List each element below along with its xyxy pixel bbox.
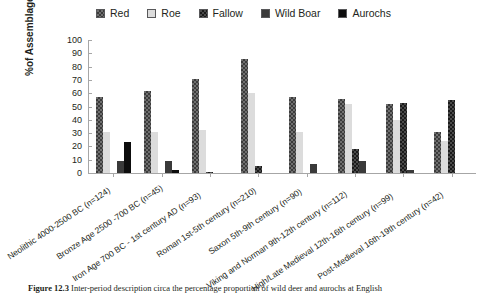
x-tick-label: Saxon 5th-9th century (n=90) [207,187,304,256]
bar-group [137,40,185,173]
y-tick-label: 0 [52,169,82,178]
plot-area: %of Assemblages 1009080706050403020100 [0,30,487,180]
y-tick-label: 10 [52,156,82,165]
y-tick-label: 40 [52,116,82,125]
y-tick-label: 60 [52,89,82,98]
bar-wild-boar[interactable] [407,170,414,173]
bar-groups [89,40,476,173]
fallow-swatch-icon [199,9,208,18]
bar-group [186,40,234,173]
bar-roe[interactable] [393,120,400,173]
red-swatch-icon [96,9,105,18]
wild-boar-swatch-icon [261,9,270,18]
bar-red[interactable] [338,99,345,173]
legend-label-wild-boar: Wild Boar [275,8,321,19]
y-tick-label: 90 [52,49,82,58]
bar-red[interactable] [289,97,296,173]
figure-container: Red Roe Fallow Wild Boar Aurochs %of Ass… [0,0,487,298]
bar-wild-boar[interactable] [165,161,172,173]
bar-roe[interactable] [151,132,158,173]
bar-roe[interactable] [296,132,303,173]
bar-roe[interactable] [199,130,206,173]
bar-fallow[interactable] [255,166,262,173]
caption-number: Figure 12.3 [28,283,69,293]
bar-red[interactable] [434,132,441,173]
bar-wild-boar[interactable] [359,161,366,173]
bar-aurochs[interactable] [172,170,179,173]
bar-wild-boar[interactable] [117,161,124,173]
bar-roe[interactable] [103,132,110,173]
legend-label-fallow: Fallow [213,8,243,19]
aurochs-swatch-icon [338,9,347,18]
y-tick-label: 100 [52,36,82,45]
bar-group [428,40,476,173]
legend-label-roe: Roe [161,8,180,19]
legend-item-red[interactable]: Red [96,8,129,19]
bar-red[interactable] [144,91,151,173]
bar-aurochs[interactable] [124,142,131,173]
y-axis-ticks: 1009080706050403020100 [58,40,88,173]
roe-swatch-icon [147,9,156,18]
y-tick-label: 80 [52,63,82,72]
y-tick-label: 50 [52,103,82,112]
bar-red[interactable] [386,104,393,173]
bar-roe[interactable] [345,104,352,173]
x-axis-line [88,173,476,174]
y-tick-label: 70 [52,76,82,85]
y-tick-label: 20 [52,142,82,151]
chart-legend: Red Roe Fallow Wild Boar Aurochs [0,8,487,19]
bar-fallow[interactable] [352,149,359,173]
bar-red[interactable] [96,97,103,173]
legend-item-fallow[interactable]: Fallow [199,8,243,19]
bar-fallow[interactable] [400,103,407,173]
bar-roe[interactable] [441,141,448,173]
bar-group [331,40,379,173]
figure-caption: Figure 12.3 Inter-period description cir… [28,283,460,293]
bar-wild-boar[interactable] [310,164,317,173]
legend-item-aurochs[interactable]: Aurochs [338,8,391,19]
bar-roe[interactable] [248,93,255,173]
bar-group [234,40,282,173]
bar-fallow[interactable] [206,172,213,173]
caption-text: Inter-period description circa the perce… [71,283,382,293]
y-tick-label: 30 [52,129,82,138]
y-axis-label: %of Assemblages [24,62,35,76]
legend-label-red: Red [110,8,129,19]
legend-item-roe[interactable]: Roe [147,8,180,19]
bar-group [89,40,137,173]
bar-red[interactable] [241,59,248,173]
x-axis-labels: Neolithic 4000-2500 BC (n=124)Bronze Age… [0,181,487,271]
bar-red[interactable] [192,79,199,173]
bar-group [283,40,331,173]
legend-item-wild-boar[interactable]: Wild Boar [261,8,321,19]
bar-fallow[interactable] [448,100,455,173]
bar-group [379,40,427,173]
legend-label-aurochs: Aurochs [352,8,391,19]
